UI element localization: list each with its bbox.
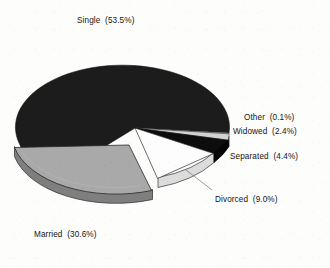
label-divorced: Divorced (9.0%) [215, 196, 278, 204]
label-separated: Separated (4.4%) [230, 153, 298, 161]
pie-top-faces [15, 65, 230, 194]
label-single: Single (53.5%) [77, 17, 134, 25]
label-other: Other (0.1%) [244, 114, 294, 122]
label-widowed: Widowed (2.4%) [233, 128, 297, 136]
pie-chart-figure: Single (53.5%) Other (0.1%) Widowed (2.4… [0, 0, 330, 268]
label-married: Married (30.6%) [34, 231, 97, 239]
